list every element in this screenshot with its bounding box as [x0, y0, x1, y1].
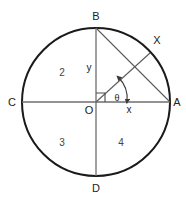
- label-point-x: X: [153, 34, 161, 46]
- label-point-d: D: [92, 182, 100, 194]
- label-point-a: A: [173, 96, 181, 108]
- label-var-x: x: [127, 104, 132, 115]
- label-point-b: B: [92, 10, 99, 22]
- label-point-c: C: [8, 96, 16, 108]
- geometry-diagram-canvas: B D C A O X y x θ 2 3 4: [0, 0, 186, 201]
- label-quadrant-2: 2: [59, 67, 65, 78]
- radius-line-ox: [96, 53, 150, 102]
- circle-diagram-svg: B D C A O X y x θ 2 3 4: [0, 0, 186, 201]
- label-angle-theta: θ: [114, 93, 119, 103]
- label-var-y: y: [87, 62, 92, 73]
- label-quadrant-3: 3: [59, 137, 65, 148]
- label-quadrant-4: 4: [118, 137, 124, 148]
- label-point-o: O: [85, 104, 94, 116]
